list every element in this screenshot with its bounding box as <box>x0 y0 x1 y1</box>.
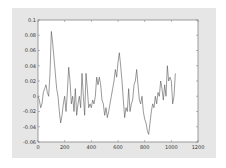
x-tick-label: 600 <box>113 144 123 150</box>
y-tick-label: 0.06 <box>25 47 36 53</box>
x-tick-label: 1000 <box>165 144 178 150</box>
y-tick-label: -0.02 <box>23 108 36 114</box>
y-tick-label: 0.02 <box>25 78 36 84</box>
x-tick-label: 0 <box>36 144 39 150</box>
plot-area <box>38 20 198 142</box>
x-tick-label: 400 <box>87 144 97 150</box>
y-tick-label: -0.06 <box>23 139 36 145</box>
y-tick-label: -0.04 <box>23 124 36 130</box>
y-tick-label: 0.1 <box>28 17 36 23</box>
y-tick-label: 0.08 <box>25 32 36 38</box>
y-tick-label: 0.04 <box>25 63 36 69</box>
x-tick-label: 200 <box>60 144 70 150</box>
x-tick-label: 1200 <box>192 144 205 150</box>
x-tick-label: 800 <box>140 144 150 150</box>
y-tick-label: 0 <box>33 93 36 99</box>
line-chart: 0.10.080.060.040.020-0.02-0.04-0.06 0200… <box>0 0 226 168</box>
